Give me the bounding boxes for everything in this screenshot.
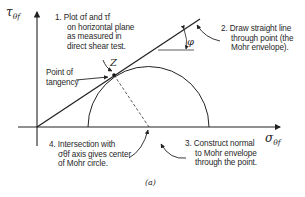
point-z-label: Z bbox=[110, 58, 117, 68]
tangency-point bbox=[112, 73, 116, 77]
step-2-text: 2. Draw straight line through point (the… bbox=[221, 24, 293, 53]
step-1-text: 1. Plot σf and τf on horizontal plane as… bbox=[55, 13, 134, 51]
sigma-axis-label: σθf bbox=[265, 131, 281, 147]
step-3-text: 3. Construct normal to Mohr envelope thr… bbox=[185, 139, 257, 168]
tau-axis-label: τθf bbox=[6, 5, 20, 21]
leader-step4 bbox=[129, 130, 148, 158]
figure-caption: (a) bbox=[145, 178, 156, 188]
leader-step2 bbox=[197, 25, 220, 41]
normal-line bbox=[114, 75, 149, 127]
tangency-label: Point of tangency bbox=[46, 68, 78, 87]
leader-tangency bbox=[76, 77, 108, 80]
step-4-text: 4. Intersection with σθf axis gives cent… bbox=[49, 140, 131, 169]
phi-label: φ bbox=[187, 37, 194, 47]
mohr-circle bbox=[88, 67, 209, 127]
leader-step3 bbox=[161, 144, 186, 158]
